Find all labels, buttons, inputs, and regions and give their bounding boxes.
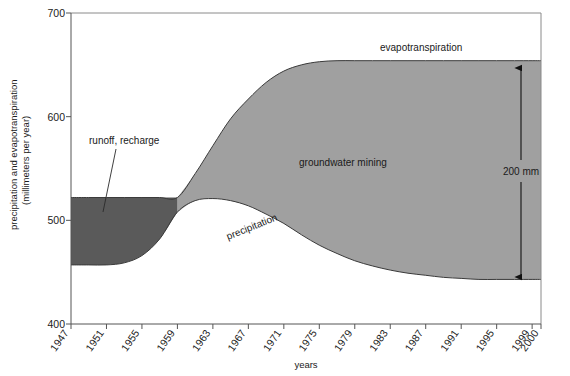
y-axis-title-line2: (millimeters per year) [20,116,31,205]
x-tick-label-1971: 1971 [260,327,283,353]
y-axis-title: precipitation and evapotranspiration (mi… [8,79,31,230]
x-tick-label-1967: 1967 [225,327,248,353]
x-tick-label-1963: 1963 [189,327,212,353]
y-tick-label-500: 500 [47,214,65,226]
y-axis-title-line1: precipitation and evapotranspiration [8,79,19,230]
evapotranspiration-label: evapotranspiration [380,42,462,53]
x-tick-label-1947: 1947 [47,327,70,353]
groundwater-balance-chart: 700 600 500 400 194719511955195919631967… [0,0,570,376]
y-tick-label-400: 400 [47,318,65,330]
chart-container: 700 600 500 400 194719511955195919631967… [0,0,570,376]
x-tick-label-1975: 1975 [296,327,319,353]
x-tick-label-1951: 1951 [83,327,106,353]
x-tick-label-1979: 1979 [331,327,354,353]
x-axis-ticks [71,324,541,329]
x-tick-label-1995: 1995 [473,327,496,353]
runoff-recharge-label: runoff, recharge [89,135,160,146]
x-axis-title: years [294,359,317,370]
x-tick-label-1991: 1991 [438,327,461,353]
y-tick-label-700: 700 [47,7,65,19]
groundwater-mining-label: groundwater mining [299,157,387,168]
y-tick-label-600: 600 [47,111,65,123]
x-tick-label-1955: 1955 [118,327,141,353]
x-tick-label-1959: 1959 [154,327,177,353]
dimension-label-200mm: 200 mm [503,166,539,177]
x-tick-label-1987: 1987 [402,327,425,353]
x-tick-label-1983: 1983 [367,327,390,353]
x-axis-tick-labels: 1947195119551959196319671971197519791983… [47,327,540,353]
y-axis-ticks [66,13,71,324]
